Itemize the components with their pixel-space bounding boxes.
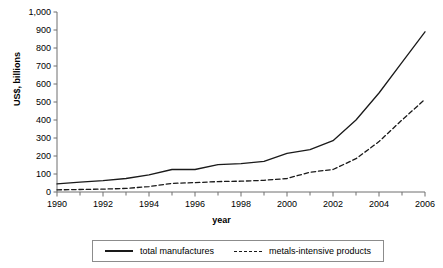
legend-label: total manufactures [140,247,214,256]
chart-legend: total manufactures metals-intensive prod… [92,240,384,262]
legend-dashed-line-icon [234,251,262,252]
series-line [57,32,425,184]
legend-item-metals-intensive-products: metals-intensive products [234,247,371,256]
legend-solid-line-icon [105,250,133,251]
plot-area [0,0,443,268]
line-chart: US$, billions 01002003004005006007008009… [0,0,443,268]
axis-lines [57,12,425,192]
data-series-paths [57,32,425,190]
legend-label: metals-intensive products [269,247,371,256]
legend-item-total-manufactures: total manufactures [105,247,214,256]
x-axis-title: year [0,215,443,225]
series-line [57,99,425,190]
